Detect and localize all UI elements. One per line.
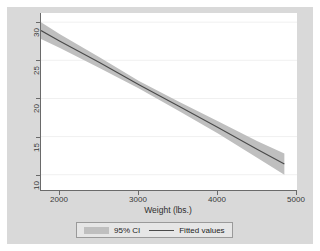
x-axis-tick-label: 4000	[197, 195, 237, 204]
y-axis-tick-label: 10	[32, 174, 41, 196]
y-axis-tick-label: 20	[32, 98, 41, 120]
plot-area	[40, 13, 297, 191]
y-axis-tick-mark	[36, 175, 40, 176]
legend-item-fitted[interactable]: Fitted values	[149, 226, 224, 235]
x-axis-title: Weight (lbs.)	[40, 205, 296, 215]
legend-item-ci-label: 95% CI	[114, 226, 140, 235]
y-axis-tick-mark	[36, 60, 40, 61]
y-axis-tick-mark	[36, 98, 40, 99]
ci-band-swatch-icon	[84, 227, 109, 234]
y-axis-tick-label: 15	[32, 136, 41, 158]
fitted-line-swatch-icon	[149, 230, 174, 231]
x-axis-tick-label: 2000	[39, 195, 79, 204]
plot-svg	[41, 13, 297, 190]
y-axis-tick-label: 30	[32, 22, 41, 44]
x-axis-tick-label: 3000	[118, 195, 158, 204]
y-axis-tick-labels: 1015202530	[14, 0, 36, 251]
chart-legend: 95% CI Fitted values	[76, 222, 233, 238]
legend-item-ci[interactable]: 95% CI	[84, 226, 140, 235]
legend-item-fitted-label: Fitted values	[179, 226, 224, 235]
y-axis-tick-mark	[36, 22, 40, 23]
x-axis-tick-label: 5000	[276, 195, 316, 204]
graph-screenshot: 1015202530 2000300040005000 Weight (lbs.…	[0, 0, 320, 251]
y-axis-tick-mark	[36, 137, 40, 138]
y-axis-tick-label: 25	[32, 60, 41, 82]
fitted-values-line	[41, 31, 284, 165]
